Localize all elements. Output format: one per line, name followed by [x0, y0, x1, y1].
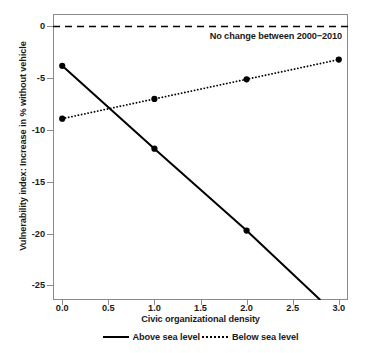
x-tick-label: 0.5: [88, 303, 128, 313]
legend-swatch-solid: [103, 336, 129, 338]
legend-label: Below sea level: [232, 332, 298, 342]
x-tick-label: 1.0: [134, 303, 174, 313]
data-point: [336, 56, 342, 62]
legend-item: Above sea level: [103, 332, 200, 342]
legend-item: Below sea level: [202, 332, 298, 342]
data-point: [151, 96, 157, 102]
series-line-1: [62, 60, 339, 119]
x-tick-label: 2.0: [227, 303, 267, 313]
series-line-0: [62, 66, 320, 300]
chart-figure: Vulnerability index: Increase in % witho…: [0, 0, 371, 353]
data-point: [243, 227, 249, 233]
x-tick-label: 0.0: [42, 303, 82, 313]
legend-label: Above sea level: [133, 332, 200, 342]
chart-legend: Above sea levelBelow sea level: [53, 332, 348, 342]
data-point: [243, 76, 249, 82]
legend-swatch-dotted: [202, 336, 228, 338]
x-tick-label: 3.0: [319, 303, 359, 313]
data-point: [59, 63, 65, 69]
y-tick-label: -25: [0, 280, 45, 290]
y-tick-label: -15: [0, 177, 45, 187]
y-tick-label: 0: [0, 21, 45, 31]
reference-line-annotation: No change between 2000−2010: [0, 31, 342, 41]
y-tick-label: -10: [0, 125, 45, 135]
data-point: [59, 116, 65, 122]
data-point: [151, 146, 157, 152]
x-tick-label: 1.5: [181, 303, 221, 313]
y-tick-label: -20: [0, 229, 45, 239]
plot-canvas: [53, 14, 348, 300]
y-tick-label: -5: [0, 73, 45, 83]
x-tick-label: 2.5: [273, 303, 313, 313]
y-axis-title: Vulnerability index: Increase in % witho…: [16, 0, 30, 296]
x-axis-title: Civic organizational density: [53, 314, 348, 324]
